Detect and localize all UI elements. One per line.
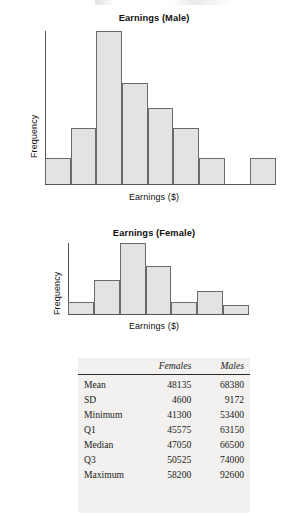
histogram-bar — [94, 280, 120, 314]
histogram-bar — [250, 158, 276, 184]
histogram-bar — [96, 31, 122, 184]
table-row: SD 4600 9172 — [78, 392, 250, 407]
stat-label: Median — [78, 437, 140, 452]
female-y-axis-label: Frequency — [52, 272, 62, 315]
table-row: Mean 48135 68380 — [78, 375, 250, 393]
female-x-axis-line — [68, 314, 249, 315]
stats-table: Females Males Mean 48135 68380 SD 4600 9… — [78, 358, 250, 482]
stat-value-females: 48135 — [140, 375, 199, 393]
male-histogram-bars — [45, 31, 276, 184]
histogram-bar — [171, 302, 197, 314]
table-row: Q1 45575 63150 — [78, 422, 250, 437]
stat-value-females: 4600 — [140, 392, 199, 407]
table-header-females: Females — [140, 358, 199, 375]
table-row: Q3 50525 74000 — [78, 452, 250, 467]
stat-value-males: 66500 — [199, 437, 250, 452]
summary-statistics-table: Females Males Mean 48135 68380 SD 4600 9… — [78, 358, 250, 513]
histogram-bar — [68, 302, 94, 314]
table-row: Maximum 58200 92600 — [78, 467, 250, 482]
male-plot-area: Frequency Earnings ($) — [0, 24, 308, 194]
stat-value-males: 68380 — [199, 375, 250, 393]
stat-label: Mean — [78, 375, 140, 393]
stat-label: Minimum — [78, 407, 140, 422]
table-header-row: Females Males — [78, 358, 250, 375]
male-y-axis-label: Frequency — [29, 115, 39, 158]
stat-value-females: 41300 — [140, 407, 199, 422]
stats-table-head: Females Males — [78, 358, 250, 375]
histogram-bar — [197, 291, 223, 314]
stat-value-females: 45575 — [140, 422, 199, 437]
histogram-bar — [120, 243, 146, 314]
histogram-bar — [148, 108, 174, 184]
stat-value-males: 9172 — [199, 392, 250, 407]
histogram-bar — [71, 128, 97, 184]
male-earnings-chart: Earnings (Male) Frequency Earnings ($) — [0, 8, 308, 224]
histogram-bar — [146, 266, 172, 314]
scan-artifact — [95, 0, 235, 5]
stat-value-females: 50525 — [140, 452, 199, 467]
table-row: Median 47050 66500 — [78, 437, 250, 452]
stat-label: Q1 — [78, 422, 140, 437]
female-histogram-bars — [68, 243, 249, 314]
stat-label: SD — [78, 392, 140, 407]
table-corner-header — [78, 358, 140, 375]
stat-value-males: 63150 — [199, 422, 250, 437]
histogram-bar — [173, 128, 199, 184]
stat-value-males: 92600 — [199, 467, 250, 482]
female-plot-area: Frequency Earnings ($) — [0, 239, 308, 321]
page-root: Earnings (Male) Frequency Earnings ($) E… — [0, 0, 308, 516]
female-chart-title: Earnings (Female) — [0, 227, 308, 239]
stat-label: Q3 — [78, 452, 140, 467]
histogram-bar — [199, 158, 225, 184]
histogram-bar — [45, 158, 71, 184]
stat-value-males: 53400 — [199, 407, 250, 422]
female-earnings-chart: Earnings (Female) Frequency Earnings ($) — [0, 224, 308, 350]
table-row: Minimum 41300 53400 — [78, 407, 250, 422]
male-chart-title: Earnings (Male) — [0, 12, 308, 24]
histogram-bar — [223, 305, 249, 314]
stat-label: Maximum — [78, 467, 140, 482]
stats-table-body: Mean 48135 68380 SD 4600 9172 Minimum 41… — [78, 375, 250, 483]
stat-value-females: 58200 — [140, 467, 199, 482]
stat-value-females: 47050 — [140, 437, 199, 452]
table-header-males: Males — [199, 358, 250, 375]
stat-value-males: 74000 — [199, 452, 250, 467]
female-x-axis-label: Earnings ($) — [0, 321, 308, 331]
male-x-axis-line — [45, 184, 276, 185]
male-x-axis-label: Earnings ($) — [0, 192, 308, 202]
histogram-bar — [122, 83, 148, 184]
